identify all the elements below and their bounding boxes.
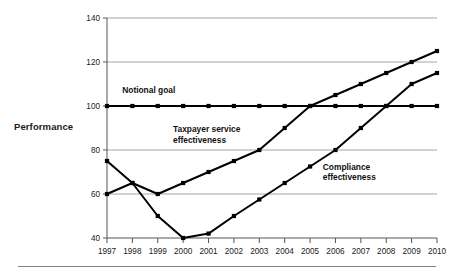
x-tick-label: 2007 (352, 247, 371, 256)
data-point-marker (283, 126, 287, 130)
y-tick-label: 120 (86, 58, 100, 67)
data-point-marker (181, 236, 185, 240)
data-point-marker (105, 192, 109, 196)
data-point-marker (308, 104, 312, 108)
data-point-marker (156, 192, 160, 196)
chart-figure: Performance 406080100120140 199719981999… (0, 0, 454, 278)
data-point-marker (283, 104, 287, 108)
x-tick-label: 2008 (377, 247, 396, 256)
series-annotation: Taxpayer serviceeffectiveness (173, 124, 241, 145)
data-point-marker (410, 104, 414, 108)
y-tick-label: 40 (91, 234, 101, 243)
x-tick-label: 2009 (403, 247, 422, 256)
gridlines-group (107, 18, 437, 238)
series-annotation: Notional goal (122, 85, 175, 95)
data-point-marker (105, 159, 109, 163)
data-series-group (105, 49, 439, 240)
data-point-marker (384, 71, 388, 75)
x-tick-label: 2002 (225, 247, 244, 256)
data-point-marker (232, 214, 236, 218)
series-annotation: Complianceeffectiveness (323, 162, 376, 183)
x-tick-label: 2001 (199, 247, 218, 256)
data-point-marker (283, 181, 287, 185)
performance-line-chart: 406080100120140 199719981999200020012002… (0, 0, 454, 278)
x-tick-label: 2006 (326, 247, 345, 256)
x-tick-label: 1997 (98, 247, 117, 256)
data-point-marker (206, 104, 210, 108)
data-point-marker (130, 181, 134, 185)
data-point-marker (410, 82, 414, 86)
data-point-marker (232, 104, 236, 108)
annotation-line: Taxpayer service (173, 124, 241, 134)
data-point-marker (435, 104, 439, 108)
data-point-marker (206, 170, 210, 174)
x-tick-label: 2004 (276, 247, 295, 256)
annotations-group: Notional goalTaxpayer serviceeffectivene… (122, 85, 376, 183)
data-point-marker (435, 49, 439, 53)
x-tick-label: 1999 (149, 247, 168, 256)
annotation-line: Compliance (323, 162, 371, 172)
data-point-marker (232, 159, 236, 163)
footer-divider (18, 266, 436, 267)
x-tick-label: 2003 (250, 247, 269, 256)
x-axis-ticks-group: 1997199819992000200120022003200420052006… (98, 238, 447, 256)
data-point-marker (359, 126, 363, 130)
data-point-marker (333, 93, 337, 97)
data-point-marker (257, 148, 261, 152)
y-tick-label: 100 (86, 102, 100, 111)
y-tick-label: 80 (91, 146, 101, 155)
series-line (107, 73, 437, 238)
data-point-marker (156, 104, 160, 108)
data-point-marker (333, 148, 337, 152)
data-point-marker (359, 82, 363, 86)
data-point-marker (130, 104, 134, 108)
data-point-marker (181, 181, 185, 185)
data-point-marker (308, 164, 312, 168)
data-point-marker (333, 104, 337, 108)
annotation-line: effectiveness (323, 172, 376, 182)
x-tick-label: 2005 (301, 247, 320, 256)
data-point-marker (181, 104, 185, 108)
data-point-marker (384, 104, 388, 108)
data-point-marker (359, 104, 363, 108)
data-point-marker (206, 232, 210, 236)
data-point-marker (435, 71, 439, 75)
x-tick-label: 2000 (174, 247, 193, 256)
data-point-marker (257, 104, 261, 108)
x-tick-label: 2010 (428, 247, 447, 256)
data-point-marker (410, 60, 414, 64)
data-point-marker (105, 104, 109, 108)
x-tick-label: 1998 (123, 247, 142, 256)
data-point-marker (257, 197, 261, 201)
data-point-marker (156, 214, 160, 218)
y-tick-label: 140 (86, 14, 100, 23)
y-axis-ticks-group: 406080100120140 (86, 14, 107, 243)
y-tick-label: 60 (91, 190, 101, 199)
annotation-line: effectiveness (173, 135, 226, 145)
